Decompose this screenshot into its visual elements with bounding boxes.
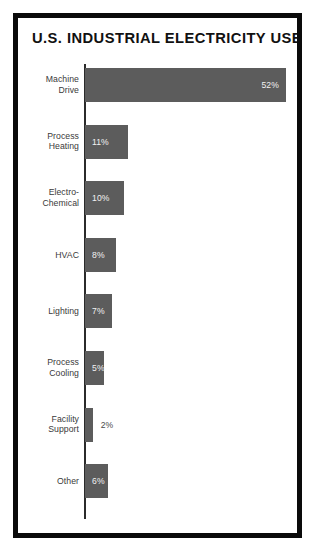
bar-value-label: 10% [92,193,110,203]
bar-chart: MachineDrive52%ProcessHeating11%Electro-… [18,62,297,532]
bar: 8% [85,238,116,272]
poster-content: U.S. INDUSTRIAL ELECTRICITY USE MachineD… [18,18,297,533]
page-title: U.S. INDUSTRIAL ELECTRICITY USE [32,29,297,46]
bar-category-label: ProcessCooling [18,357,79,378]
bar-category-label: Lighting [18,306,79,317]
poster-frame: U.S. INDUSTRIAL ELECTRICITY USE MachineD… [13,13,302,538]
bar-row: FacilitySupport2% [18,408,297,442]
bar: 5% [85,351,104,385]
bar: 7% [85,294,112,328]
bar: 52% [85,68,286,102]
bar-row: Other6% [18,464,297,498]
bar: 2% [85,408,93,442]
bar-category-label: ProcessHeating [18,131,79,152]
bar-value-label: 7% [92,306,105,316]
bar-value-label: 8% [92,250,105,260]
bar-category-label: MachineDrive [18,74,79,95]
bar-value-label: 6% [92,476,105,486]
bar: 10% [85,181,124,215]
bar: 11% [85,125,128,159]
bar-row: Lighting7% [18,294,297,328]
bar-value-label: 5% [92,363,105,373]
bar-value-label: 2% [101,420,114,430]
bar-value-label: 11% [92,137,109,147]
bar-category-label: HVAC [18,250,79,261]
bar: 6% [85,464,108,498]
bar-category-label: Other [18,476,79,487]
bar-row: MachineDrive52% [18,68,297,102]
bar-category-label: Electro-Chemical [18,188,79,209]
bar-row: ProcessCooling5% [18,351,297,385]
bar-row: ProcessHeating11% [18,125,297,159]
bar-category-label: FacilitySupport [18,414,79,435]
bar-row: Electro-Chemical10% [18,181,297,215]
bar-value-label: 52% [261,80,279,90]
bar-row: HVAC8% [18,238,297,272]
